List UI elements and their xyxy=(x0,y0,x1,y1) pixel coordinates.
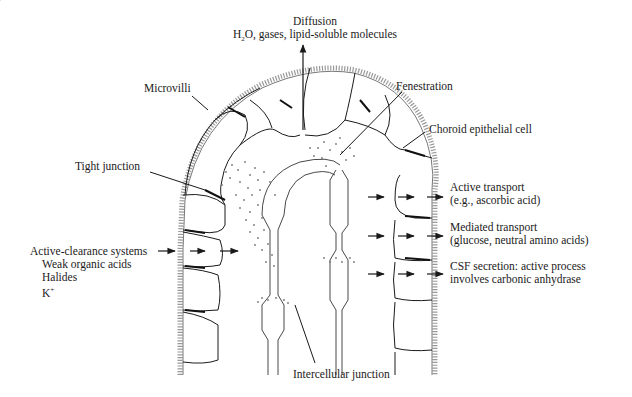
clearance-item: Weak organic acids xyxy=(30,258,147,271)
csf-secretion-label: CSF secretion: active process involves c… xyxy=(450,260,586,286)
fenestration-label: Fenestration xyxy=(396,80,453,93)
clearance-item: K+ xyxy=(30,284,147,300)
tight-junction-leader xyxy=(150,172,205,190)
active-transport-label: Active transport (e.g., ascorbic acid) xyxy=(450,181,540,207)
stipple-left xyxy=(221,161,289,304)
intercellular-junction-label: Intercellular junction xyxy=(293,368,390,381)
microvilli-label: Microvilli xyxy=(144,82,191,95)
tight-junction-label: Tight junction xyxy=(75,160,140,173)
diffusion-subtitle: H2O, gases, lipid-soluble molecules xyxy=(230,28,400,46)
diffusion-title: Diffusion xyxy=(230,15,400,28)
active-clearance-title: Active-clearance systems xyxy=(30,245,147,258)
microvilli-leader xyxy=(192,96,208,110)
choroid-epithelial-cell-label: Choroid epithelial cell xyxy=(429,123,532,136)
capillary xyxy=(262,159,348,375)
mediated-transport-label: Mediated transport (glucose, neutral ami… xyxy=(450,221,589,247)
diffusion-label: Diffusion H2O, gases, lipid-soluble mole… xyxy=(230,15,400,46)
active-clearance-label: Active-clearance systems Weak organic ac… xyxy=(30,245,147,300)
left-epithelial-cells xyxy=(183,68,432,375)
leader-lines xyxy=(150,92,425,363)
choroid-cell-leader xyxy=(403,132,425,148)
clearance-item: Halides xyxy=(30,271,147,284)
intercellular-junction-leader xyxy=(295,305,315,363)
